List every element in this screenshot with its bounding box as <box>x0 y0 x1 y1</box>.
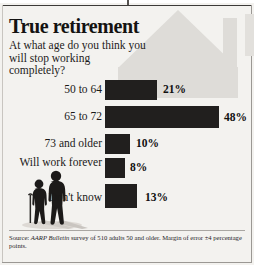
top-divider-rule <box>2 5 252 6</box>
bar-value-label: 8% <box>130 161 147 173</box>
chart-row: 65 to 72 48% <box>0 104 254 132</box>
bar-value-label: 21% <box>163 83 186 95</box>
chart-row: Don't know 13% <box>0 182 254 210</box>
bar-rect <box>105 134 130 154</box>
bar-value-label: 48% <box>224 111 247 123</box>
bar-rect <box>105 184 137 208</box>
bar-rect <box>105 80 157 100</box>
page-title: True retirement <box>9 15 139 38</box>
infographic-panel: True retirement At what age do you think… <box>0 0 254 265</box>
chart-row: Will work forever 8% <box>0 156 254 182</box>
bar-category-label: 65 to 72 <box>0 110 102 122</box>
bar-rect <box>105 158 125 178</box>
chart-question: At what age do you think you will stop w… <box>9 39 149 77</box>
bar-value-label: 10% <box>136 137 159 149</box>
bar-category-label: 50 to 64 <box>0 83 102 95</box>
bar-chart: 50 to 64 21% 65 to 72 48% 73 and older 1… <box>0 78 254 216</box>
bar-category-label: Don't know <box>0 191 102 203</box>
chart-row: 73 and older 10% <box>0 132 254 156</box>
source-publication: AARP Bulletin <box>31 234 70 241</box>
bar-category-label: 73 and older <box>0 137 102 149</box>
source-note: Source: AARP Bulletin survey of 510 adul… <box>9 234 243 249</box>
source-divider <box>9 230 245 231</box>
bar-rect <box>105 106 219 128</box>
bar-category-label: Will work forever <box>0 156 102 168</box>
frame-bottom-edge <box>2 262 252 263</box>
bar-value-label: 13% <box>145 191 168 203</box>
source-prefix: Source: <box>9 234 31 241</box>
chart-row: 50 to 64 21% <box>0 78 254 104</box>
